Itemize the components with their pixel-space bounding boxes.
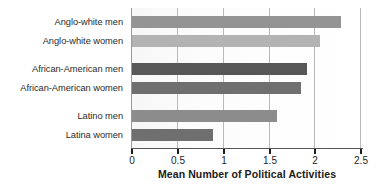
tick-mark-2 [314,149,316,154]
plot-background [131,8,362,148]
tick-label-0.5: 0.5 [171,155,185,166]
tick-label-2: 2 [312,155,318,166]
gridline-1 [223,8,224,148]
category-label-latino-men: Latino men [78,111,124,122]
x-axis-line [131,148,363,149]
y-axis-line [131,8,132,148]
bar-anglo-white-men [131,16,341,28]
tick-mark-1.5 [269,149,271,154]
category-label-anglo-white-men: Anglo-white men [55,17,124,28]
bar-african-american-women [131,82,301,94]
tick-mark-0.5 [177,149,179,154]
category-label-anglo-white-women: Anglo-white women [43,36,123,47]
tick-mark-2.5 [360,149,362,154]
gridline-1.5 [269,8,270,148]
bar-african-american-men [131,63,307,75]
x-axis-title: Mean Number of Political Activities [131,168,363,180]
tick-mark-1 [223,149,225,154]
category-label-african-american-men: African-American men [32,64,123,75]
bar-latino-men [131,110,277,122]
plot-area [131,8,362,148]
tick-label-2.5: 2.5 [354,155,368,166]
bar-latina-women [131,129,213,141]
tick-label-1: 1 [221,155,227,166]
tick-label-1.5: 1.5 [263,155,277,166]
bar-chart: Anglo-white men Anglo-white women Africa… [0,0,380,185]
category-label-latina-women: Latina women [66,130,123,141]
category-axis-labels: Anglo-white men Anglo-white women Africa… [0,8,127,148]
tick-mark-0 [131,149,133,154]
gridline-2.5 [360,8,361,148]
category-label-african-american-women: African-American women [20,83,123,94]
gridline-2 [314,8,315,148]
gridline-0.5 [177,8,178,148]
bar-anglo-white-women [131,35,320,47]
tick-label-0: 0 [129,155,135,166]
